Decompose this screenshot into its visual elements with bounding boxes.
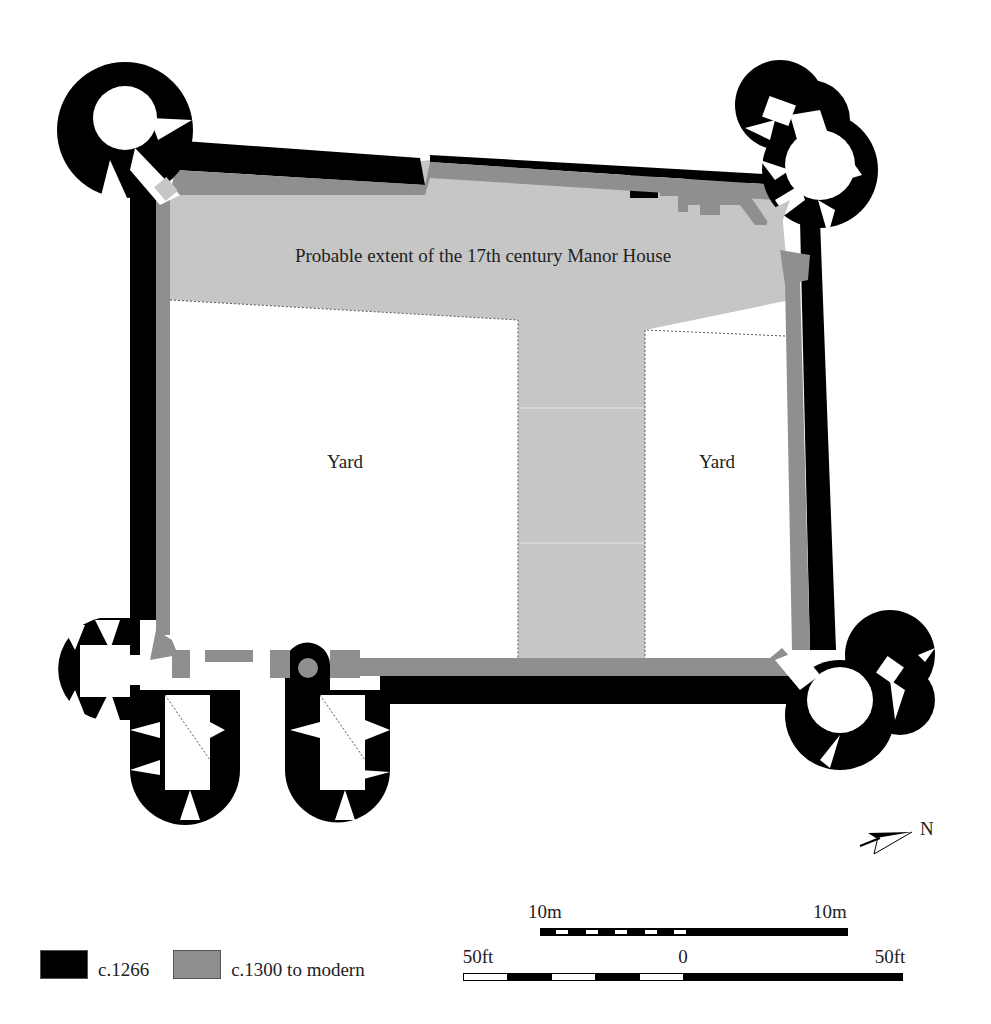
scale-metric-right: 10m	[813, 901, 847, 922]
scale-bar-imperial	[463, 973, 903, 981]
legend-swatch-later	[173, 950, 221, 979]
legend-swatch-c1266	[40, 950, 88, 979]
manor-house-label: Probable extent of the 17th century Mano…	[295, 245, 671, 266]
north-arrow-icon	[860, 832, 912, 854]
yard-east-label: Yard	[699, 451, 736, 472]
legend-label-later: c.1300 to modern	[231, 959, 365, 981]
legend-label-c1266: c.1266	[98, 959, 149, 981]
legend: c.1266 c.1300 to modern	[40, 950, 365, 979]
yard-west-label: Yard	[327, 451, 364, 472]
scale-imperial-center: 0	[678, 946, 688, 967]
scale-bar-metric	[540, 928, 848, 936]
scale-imperial-right: 50ft	[875, 946, 906, 967]
scale-imperial-left: 50ft	[463, 946, 494, 967]
castle-plan: Probable extent of the 17th century Mano…	[0, 0, 991, 1024]
north-label: N	[920, 818, 934, 839]
yard-west	[170, 300, 518, 660]
yard-east	[645, 330, 792, 660]
scale-metric-left: 10m	[528, 901, 562, 922]
